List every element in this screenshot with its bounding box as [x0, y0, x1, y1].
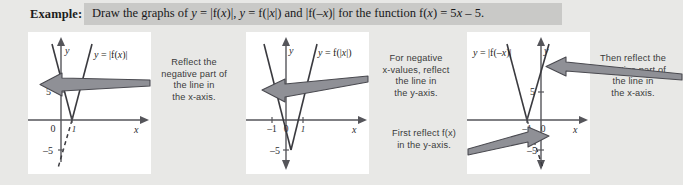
y-axis-label-2: y: [288, 45, 294, 56]
curve-mirrored-branch-2: [264, 44, 291, 150]
curve-label-1: y = |f(x)|: [93, 49, 128, 61]
example-header: Example: Draw the graphs of y = |f(x)|, …: [0, 0, 683, 30]
y-axis-arrowhead-down: [282, 160, 290, 170]
curve-label-3: y = |f(–x)|: [472, 47, 512, 59]
graph-panel-absolute-f-of-neg-x: 5 –1 0 –5 x y y = |f(–x)|: [467, 32, 590, 174]
graph-panel-f-of-absolute-x: –1 0 1 –5 x y y = f(|x|): [246, 32, 369, 174]
curve-label-2: y = f(|x|): [317, 47, 352, 59]
tick-label-origin-3: 0: [541, 124, 546, 134]
x-axis-label-3: x: [572, 124, 578, 135]
axes-group-1: [28, 42, 140, 162]
tick-label-x-neg1: –1: [266, 124, 277, 134]
y-axis-arrowhead-down: [537, 160, 545, 170]
curve-positive-branch-1: [72, 44, 92, 120]
example-label: Example:: [30, 7, 82, 22]
tick-label-origin-2: 0: [284, 124, 289, 134]
annotation-note-1: Reflect the negative part of the line in…: [146, 57, 242, 103]
curve-original-branch-2: [291, 44, 317, 150]
tick-label-y-5: 5: [530, 86, 535, 97]
y-axis-label-1: y: [64, 45, 70, 56]
tick-label-x-1: 1: [301, 124, 306, 134]
tick-label-y-neg5: –5: [42, 145, 53, 156]
y-axis-label-3: y: [543, 45, 549, 56]
graph-svg-1: 5 0 1 –5 x y y = |f(x)|: [28, 32, 151, 174]
example-prompt: Draw the graphs of y = |f(x)|, y = f(|x|…: [92, 6, 484, 21]
dashed-original-line-1: [58, 120, 72, 168]
x-axis-label-1: x: [133, 124, 139, 135]
x-axis-label-2: x: [351, 124, 357, 135]
example-figure-root: Example: Draw the graphs of y = |f(x)|, …: [0, 0, 683, 185]
graph-panel-absolute-f-of-x: 5 0 1 –5 x y y = |f(x)|: [28, 32, 151, 174]
x-axis-arrowhead: [140, 116, 149, 124]
tick-label-y-5: 5: [46, 86, 51, 97]
tick-label-x-1: 1: [72, 124, 77, 134]
graph-svg-3: 5 –1 0 –5 x y y = |f(–x)|: [467, 32, 590, 174]
tick-label-y-neg5: –5: [526, 145, 537, 156]
annotation-note-4: First reflect f(x) in the y-axis.: [372, 128, 476, 151]
graph-svg-2: –1 0 1 –5 x y y = f(|x|): [246, 32, 369, 174]
x-axis-arrowhead: [579, 116, 588, 124]
annotation-note-2: For negative x-values, reflect the line …: [366, 53, 466, 99]
tick-label-origin-1: 0: [51, 123, 56, 134]
annotation-note-3: Then reflect the negative part of the li…: [586, 53, 680, 99]
x-axis-arrowhead: [358, 116, 367, 124]
y-axis-arrowhead: [57, 37, 65, 46]
tick-label-y-neg5: –5: [269, 145, 280, 156]
tick-label-x-neg1: –1: [521, 124, 532, 134]
